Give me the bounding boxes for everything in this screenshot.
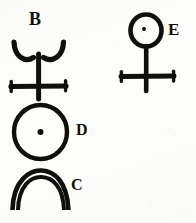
crossbar-icon (11, 86, 66, 87)
center-dot-icon (38, 129, 44, 135)
figure-c (10, 168, 76, 212)
right-crescent-icon (44, 42, 64, 60)
crossbar-icon (121, 76, 174, 77)
figure-d-label: D (76, 122, 88, 138)
figure-b (8, 40, 88, 102)
center-dot-icon (142, 27, 146, 31)
figure-b-label: B (29, 10, 41, 28)
figure-c-label: C (71, 177, 83, 193)
inner-arc-icon (18, 177, 64, 210)
symbol-plate: B E D (0, 0, 196, 223)
figure-e-label: E (168, 21, 180, 38)
circle-head-icon (131, 15, 162, 47)
figure-d (10, 101, 76, 165)
left-crescent-icon (14, 42, 34, 60)
